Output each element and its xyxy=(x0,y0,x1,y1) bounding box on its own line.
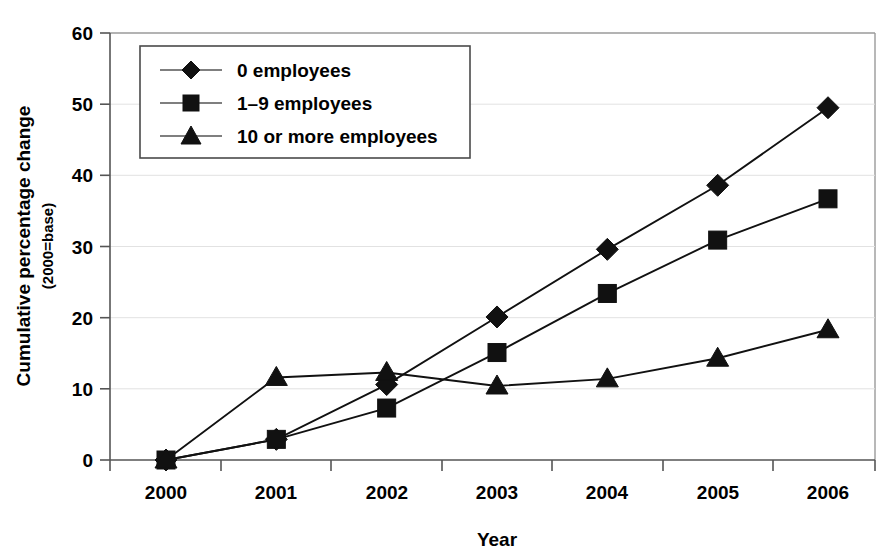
y-axis-subtitle: (2000=base) xyxy=(39,203,56,289)
legend-item-1[interactable]: 1–9 employees xyxy=(160,93,372,114)
y-axis-title: Cumulative percentage change xyxy=(13,106,34,387)
diamond-marker-icon xyxy=(596,238,618,260)
y-tick-label-20: 20 xyxy=(72,308,93,329)
line-chart: 60 50 40 30 20 10 0 Cumulative percentag… xyxy=(0,0,895,560)
y-tick-label-60: 60 xyxy=(72,23,93,44)
square-marker-icon xyxy=(183,95,199,111)
diamond-marker-icon xyxy=(486,306,508,328)
legend-label-2: 10 or more employees xyxy=(237,126,438,147)
legend-label-0: 0 employees xyxy=(237,60,351,81)
diamond-marker-icon xyxy=(817,97,839,119)
chart-legend: 0 employees 1–9 employees 10 or more emp… xyxy=(140,46,470,158)
y-tick-label-50: 50 xyxy=(72,94,93,115)
x-axis-title: Year xyxy=(477,529,518,550)
series-1 xyxy=(157,190,837,469)
triangle-marker-icon xyxy=(265,366,287,385)
x-axis: 2000 2001 2002 2003 2004 2005 2006 xyxy=(110,460,875,503)
y-tick-label-40: 40 xyxy=(72,165,93,186)
square-marker-icon xyxy=(488,344,506,362)
y-tick-label-10: 10 xyxy=(72,379,93,400)
square-marker-icon xyxy=(267,430,285,448)
x-tick-label-2002: 2002 xyxy=(366,482,408,503)
triangle-marker-icon xyxy=(376,361,398,380)
square-marker-icon xyxy=(819,190,837,208)
y-tick-label-0: 0 xyxy=(82,450,93,471)
square-marker-icon xyxy=(378,399,396,417)
y-axis: 60 50 40 30 20 10 0 xyxy=(72,23,110,471)
diamond-marker-icon xyxy=(707,174,729,196)
x-tick-label-2001: 2001 xyxy=(255,482,298,503)
y-tick-label-30: 30 xyxy=(72,237,93,258)
triangle-marker-icon xyxy=(817,319,839,338)
chart-container: 60 50 40 30 20 10 0 Cumulative percentag… xyxy=(0,0,895,560)
legend-label-1: 1–9 employees xyxy=(237,93,372,114)
x-tick-label-2000: 2000 xyxy=(145,482,187,503)
x-tick-label-2004: 2004 xyxy=(586,482,629,503)
series-line-0 xyxy=(166,108,828,460)
square-marker-icon xyxy=(709,231,727,249)
x-tick-label-2003: 2003 xyxy=(476,482,518,503)
series-line-1 xyxy=(166,199,828,460)
x-tick-label-2006: 2006 xyxy=(807,482,849,503)
series-2 xyxy=(155,319,839,468)
square-marker-icon xyxy=(598,284,616,302)
x-tick-label-2005: 2005 xyxy=(697,482,740,503)
